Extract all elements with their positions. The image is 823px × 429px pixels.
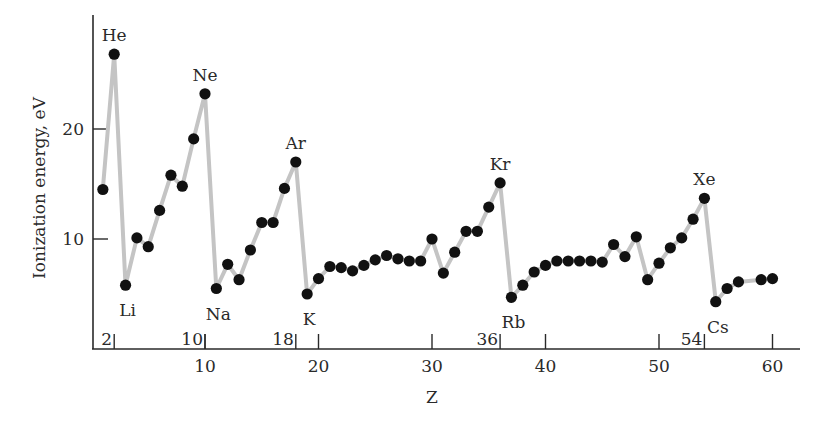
- y-tick-label: 10: [62, 229, 84, 249]
- x-tick-label: 20: [308, 356, 330, 376]
- data-point: [109, 49, 120, 60]
- data-point: [347, 265, 358, 276]
- data-point: [756, 274, 767, 285]
- data-point: [415, 255, 426, 266]
- element-label: K: [303, 309, 316, 329]
- period-tick-label: 54: [681, 329, 703, 349]
- data-point: [506, 292, 517, 303]
- data-point: [370, 254, 381, 265]
- data-point: [574, 255, 585, 266]
- data-point: [449, 247, 460, 258]
- data-point: [290, 156, 301, 167]
- data-point: [585, 255, 596, 266]
- data-point: [188, 133, 199, 144]
- data-point: [211, 283, 222, 294]
- data-point: [143, 241, 154, 252]
- element-label: He: [102, 25, 127, 45]
- data-point: [687, 214, 698, 225]
- data-point: [438, 268, 449, 279]
- data-point: [97, 184, 108, 195]
- data-point: [653, 258, 664, 269]
- chart-canvas: 1020102030405060210183654 HeNeArKrXeLiNa…: [0, 0, 823, 429]
- data-point: [472, 226, 483, 237]
- data-point: [710, 296, 721, 307]
- data-point: [324, 261, 335, 272]
- data-point: [336, 262, 347, 273]
- period-tick-label: 18: [272, 329, 294, 349]
- element-label: Xe: [693, 169, 715, 189]
- data-point: [279, 183, 290, 194]
- data-series: [97, 49, 778, 308]
- data-point: [313, 273, 324, 284]
- element-label: Ne: [193, 65, 218, 85]
- data-point: [597, 257, 608, 268]
- data-point: [733, 276, 744, 287]
- data-point: [165, 170, 176, 181]
- period-tick-label: 10: [181, 329, 203, 349]
- data-point: [120, 280, 131, 291]
- x-tick-label: 50: [648, 356, 670, 376]
- period-tick-label: 36: [476, 329, 498, 349]
- x-tick-label: 40: [535, 356, 557, 376]
- data-point: [131, 232, 142, 243]
- data-point: [222, 259, 233, 270]
- data-point: [563, 255, 574, 266]
- y-tick-label: 20: [62, 119, 84, 139]
- y-axis-title: Ionization energy, eV: [29, 96, 49, 279]
- data-point: [302, 288, 313, 299]
- data-point: [619, 251, 630, 262]
- data-point: [517, 280, 528, 291]
- data-point: [233, 274, 244, 285]
- data-point: [529, 266, 540, 277]
- data-point: [358, 260, 369, 271]
- data-point: [483, 202, 494, 213]
- x-tick-label: 10: [194, 356, 216, 376]
- data-point: [460, 226, 471, 237]
- data-point: [699, 193, 710, 204]
- data-point: [631, 231, 642, 242]
- data-point: [154, 205, 165, 216]
- data-point: [404, 255, 415, 266]
- element-label: Cs: [707, 317, 729, 337]
- data-point: [642, 274, 653, 285]
- x-axis-title: Z: [426, 387, 438, 407]
- data-point: [268, 217, 279, 228]
- data-point: [608, 239, 619, 250]
- data-point: [665, 242, 676, 253]
- element-label: Rb: [502, 312, 526, 332]
- data-point: [426, 233, 437, 244]
- data-point: [256, 217, 267, 228]
- x-tick-label: 30: [421, 356, 443, 376]
- element-label: Li: [119, 300, 136, 320]
- period-tick-label: 2: [101, 329, 112, 349]
- data-point: [767, 273, 778, 284]
- data-point: [551, 255, 562, 266]
- data-points: [97, 49, 778, 308]
- data-point: [722, 283, 733, 294]
- data-point: [676, 232, 687, 243]
- element-label: Na: [206, 304, 231, 324]
- data-point: [199, 88, 210, 99]
- data-point: [177, 181, 188, 192]
- element-label: Ar: [285, 133, 307, 153]
- data-point: [381, 250, 392, 261]
- data-point: [392, 253, 403, 264]
- element-label: Kr: [490, 154, 512, 174]
- data-point: [495, 177, 506, 188]
- data-point: [245, 244, 256, 255]
- x-tick-label: 60: [762, 356, 784, 376]
- ionization-energy-chart: 1020102030405060210183654 HeNeArKrXeLiNa…: [0, 0, 823, 429]
- element-labels: HeNeArKrXeLiNaKRbCs: [102, 25, 729, 337]
- data-point: [540, 260, 551, 271]
